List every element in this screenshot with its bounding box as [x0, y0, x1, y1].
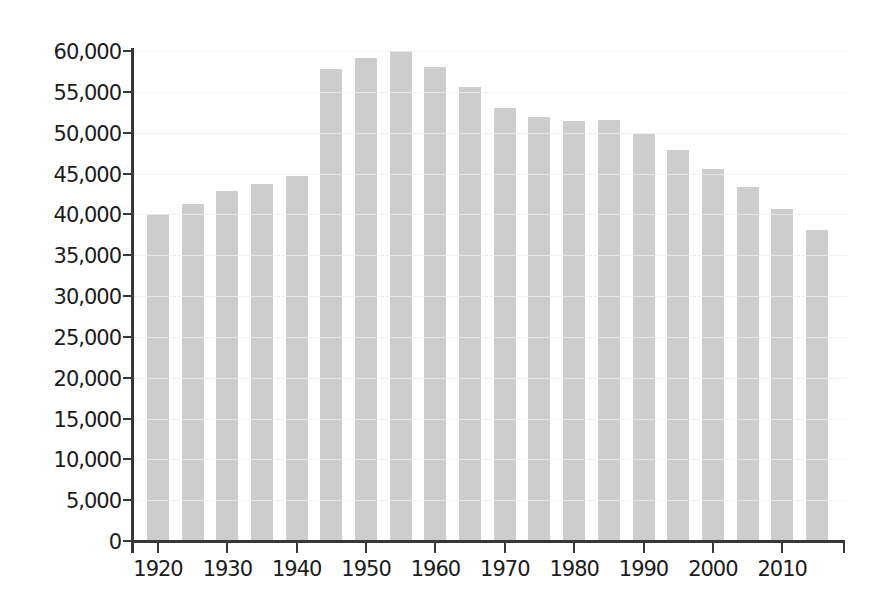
y-axis-tick-label: 55,000	[26, 81, 121, 105]
bar-1950	[355, 58, 377, 541]
y-axis-tick	[123, 336, 131, 338]
bar-1945	[320, 69, 342, 541]
x-axis-tick	[643, 543, 645, 553]
bar-2015	[806, 230, 828, 541]
bar-1995	[667, 150, 689, 541]
gridline-highlight	[134, 174, 846, 175]
bar-2010	[771, 209, 793, 541]
y-axis-tick-label: 25,000	[26, 326, 121, 350]
y-axis-tick-label: 5,000	[26, 489, 121, 513]
bar-2005	[737, 187, 759, 541]
x-axis-end-tick	[843, 543, 845, 553]
gridline-highlight	[134, 255, 846, 256]
y-axis-tick-label: 50,000	[26, 122, 121, 146]
y-axis-tick-label: 15,000	[26, 408, 121, 432]
gridline-highlight	[134, 459, 846, 460]
gridline-highlight	[134, 296, 846, 297]
y-axis-tick-label: 60,000	[26, 40, 121, 64]
x-axis-line	[131, 540, 845, 543]
gridline-highlight	[134, 214, 846, 215]
y-axis-tick	[123, 50, 131, 52]
bar-1960	[424, 67, 446, 541]
gridline-highlight	[134, 500, 846, 501]
gridline-highlight	[134, 419, 846, 420]
x-axis-tick-label: 2010	[737, 557, 827, 581]
y-axis-tick	[123, 132, 131, 134]
gridline-highlight	[134, 92, 846, 93]
bar-1965	[459, 87, 481, 541]
y-axis-tick	[123, 295, 131, 297]
x-axis-tick	[781, 543, 783, 553]
y-axis-tick	[123, 458, 131, 460]
x-axis-tick	[365, 543, 367, 553]
x-axis-tick	[504, 543, 506, 553]
y-axis-tick	[123, 213, 131, 215]
bar-1975	[528, 117, 550, 541]
bar-1940	[286, 176, 308, 541]
y-axis-tick	[123, 254, 131, 256]
bar-1985	[598, 120, 620, 541]
y-axis-line	[131, 48, 134, 553]
x-axis-tick	[434, 543, 436, 553]
y-axis-tick-label: 20,000	[26, 367, 121, 391]
gridline-highlight	[134, 51, 846, 52]
gridline-highlight	[134, 337, 846, 338]
y-axis-tick	[123, 418, 131, 420]
bar-1930	[216, 191, 238, 541]
gridline-highlight	[134, 378, 846, 379]
y-axis-tick-label: 0	[26, 530, 121, 554]
y-axis-tick	[123, 377, 131, 379]
y-axis-tick-label: 35,000	[26, 244, 121, 268]
x-axis-tick	[226, 543, 228, 553]
y-axis-tick-label: 40,000	[26, 203, 121, 227]
y-axis-tick	[123, 499, 131, 501]
bar-1980	[563, 121, 585, 541]
gridline-highlight	[134, 133, 846, 134]
x-axis-tick	[296, 543, 298, 553]
bar-2000	[702, 169, 724, 541]
y-axis-tick-label: 45,000	[26, 163, 121, 187]
x-axis-tick	[157, 543, 159, 553]
y-axis-tick	[123, 91, 131, 93]
x-axis-tick	[573, 543, 575, 553]
bar-1935	[251, 184, 273, 541]
y-axis-tick	[123, 540, 131, 542]
y-axis-tick	[123, 173, 131, 175]
bar-chart: 05,00010,00015,00020,00025,00030,00035,0…	[0, 0, 888, 610]
x-axis-tick	[712, 543, 714, 553]
y-axis-tick-label: 10,000	[26, 448, 121, 472]
y-axis-tick-label: 30,000	[26, 285, 121, 309]
